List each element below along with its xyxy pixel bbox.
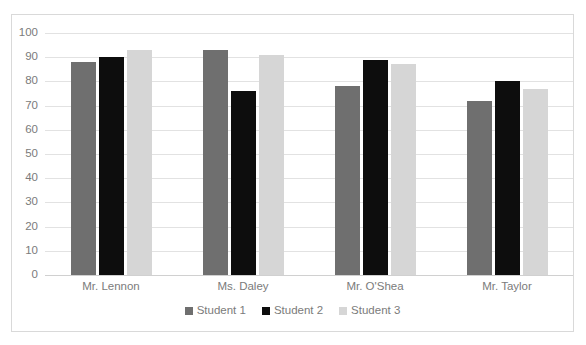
bar[interactable] [495,81,520,275]
bar[interactable] [231,91,256,275]
bar[interactable] [363,60,388,275]
legend-item[interactable]: Student 3 [339,305,400,317]
y-axis-tick-label: 90 [25,51,38,63]
y-axis-tick-label: 30 [25,197,38,209]
y-axis-tick-label: 20 [25,221,38,233]
gridline [45,275,573,276]
x-axis-tick-label: Ms. Daley [217,281,268,293]
bar[interactable] [391,64,416,275]
y-axis-tick-label: 80 [25,76,38,88]
legend-swatch-icon [185,307,193,315]
bar[interactable] [523,89,548,275]
y-axis-tick-label: 50 [25,148,38,160]
legend-label: Student 3 [351,305,400,317]
bar[interactable] [335,86,360,275]
y-axis-tick-label: 60 [25,124,38,136]
chart-legend: Student 1Student 2Student 3 [12,305,573,317]
y-axis-tick-label: 0 [32,269,38,281]
legend-swatch-icon [339,307,347,315]
bar[interactable] [127,50,152,275]
y-axis-tick-label: 40 [25,172,38,184]
bar[interactable] [467,101,492,275]
legend-swatch-icon [262,307,270,315]
y-axis: 1009080706050403020100 [12,33,44,275]
x-axis: Mr. LennonMs. DaleyMr. O'SheaMr. Taylor [45,281,573,301]
bar[interactable] [99,57,124,275]
legend-label: Student 2 [274,305,323,317]
bar-group [467,33,548,275]
bar[interactable] [203,50,228,275]
y-axis-tick-label: 100 [19,27,38,39]
plot-area [45,33,573,275]
y-axis-tick-label: 70 [25,100,38,112]
x-axis-tick-label: Mr. Taylor [482,281,532,293]
bar-group [71,33,152,275]
x-axis-tick-label: Mr. O'Shea [346,281,403,293]
legend-item[interactable]: Student 2 [262,305,323,317]
y-axis-tick-label: 10 [25,245,38,257]
legend-item[interactable]: Student 1 [185,305,246,317]
bar[interactable] [71,62,96,275]
bar-group [203,33,284,275]
legend-label: Student 1 [197,305,246,317]
chart-frame: 1009080706050403020100 Mr. LennonMs. Dal… [11,14,574,332]
x-axis-tick-label: Mr. Lennon [82,281,140,293]
bar-group [335,33,416,275]
bar[interactable] [259,55,284,275]
